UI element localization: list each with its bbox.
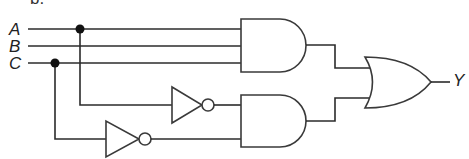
input-label-b: B bbox=[9, 38, 20, 55]
junction-dot-c bbox=[51, 59, 60, 68]
not-gate-2 bbox=[106, 121, 241, 157]
and-gate-1 bbox=[241, 19, 306, 72]
input-label-c: C bbox=[9, 55, 21, 72]
wire-and1-to-or bbox=[306, 45, 370, 68]
output-label-y: Y bbox=[453, 72, 464, 89]
input-wires bbox=[28, 29, 241, 63]
input-label-a: A bbox=[9, 21, 20, 38]
or-gate bbox=[365, 57, 431, 108]
wire-a-branch bbox=[80, 29, 172, 105]
logic-circuit-diagram: b. A B C Y bbox=[0, 0, 469, 159]
figure-label: b. bbox=[30, 0, 44, 9]
and-gate-2 bbox=[241, 95, 306, 147]
junction-dot-a bbox=[76, 25, 85, 34]
wire-and2-to-or bbox=[306, 98, 370, 121]
not-gate-1 bbox=[172, 87, 241, 123]
